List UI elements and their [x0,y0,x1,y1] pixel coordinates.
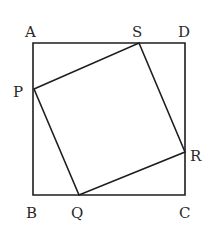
inner-square-pqrs [34,43,185,195]
vertex-label-s: S [132,23,142,41]
vertex-label-b: B [26,204,37,222]
vertex-label-p: P [13,83,23,101]
square-diagram: ASDPRBQC [0,0,219,237]
vertex-label-q: Q [71,204,83,222]
vertex-label-a: A [24,23,36,41]
vertex-label-r: R [190,147,202,165]
outer-square-abcd [33,43,185,195]
vertex-label-d: D [178,23,190,41]
vertex-label-c: C [179,204,190,222]
vertex-labels: ASDPRBQC [13,23,202,222]
